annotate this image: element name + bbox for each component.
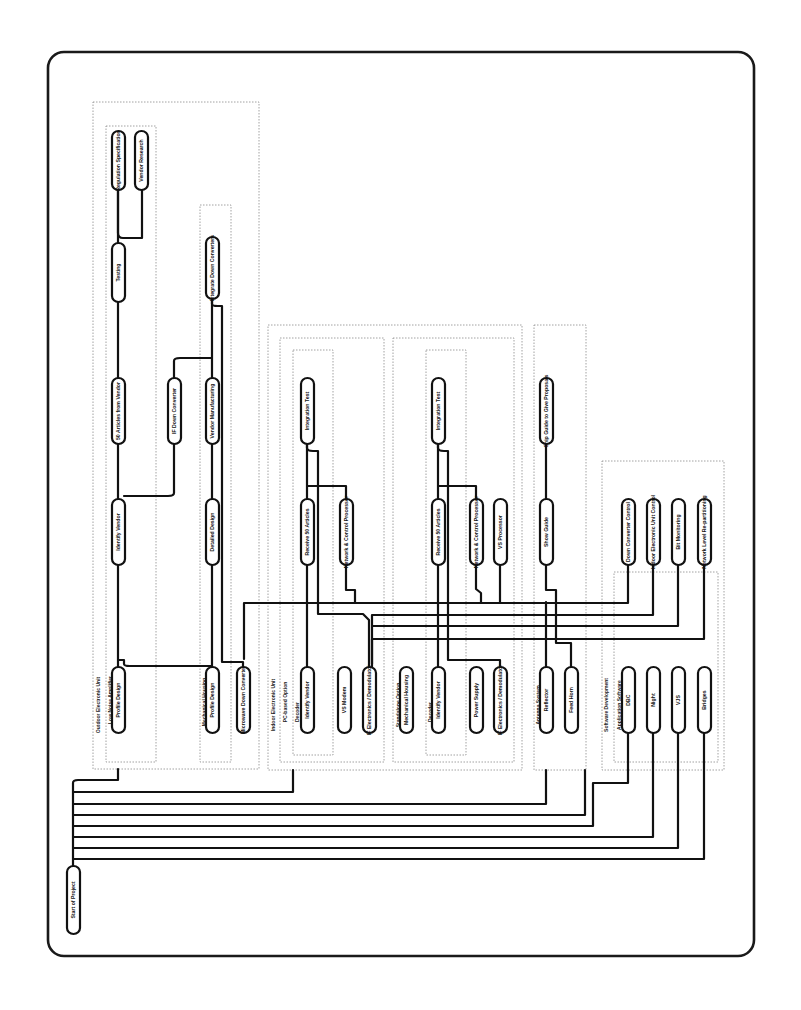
task-node-identify-vendor-2[interactable]: Identify Vendor <box>301 667 314 733</box>
task-node-indoor-ctrl[interactable]: Indoor Electronic Unit Control <box>647 494 660 569</box>
dependency-edge <box>73 733 628 826</box>
task-node-label: Power Supply <box>473 683 479 717</box>
task-node-network-ctrl-2[interactable]: Network & Control Processor <box>470 496 483 568</box>
task-node-vjs[interactable]: VJS <box>672 667 685 733</box>
task-node-label: Identify Vendor <box>304 681 310 718</box>
task-node-mod-1[interactable]: IF Electronics / Demodulator <box>363 665 376 735</box>
dependency-edge <box>556 602 571 667</box>
dependency-edge <box>73 733 678 848</box>
group-label: PC-based Option <box>282 682 288 723</box>
task-node-label: VS Modem <box>341 686 347 713</box>
task-node-vs-processor[interactable]: VS Processor <box>494 499 507 565</box>
project-network-diagram: Outdoor Electronic UnitLow Noise Amplifi… <box>0 0 801 1010</box>
task-node-reg-spec[interactable]: Regulation Specification <box>112 130 125 191</box>
dependency-edge <box>546 565 556 602</box>
task-node-testing[interactable]: Testing <box>112 243 125 302</box>
task-node-network-level[interactable]: Network Level Re-partitioning <box>698 495 711 569</box>
task-node-label: Integration Test <box>304 391 310 430</box>
dependency-edge <box>174 358 212 378</box>
task-node-label: Bit Monitoring <box>675 514 681 549</box>
task-node-rf-down[interactable]: IF Down Converter <box>168 378 181 444</box>
task-node-identify-vendor-3[interactable]: Identify Vendor <box>432 667 445 733</box>
task-node-label: Profile Design <box>209 683 215 718</box>
task-node-mod-2[interactable]: IF Electronics / Demodulator <box>494 665 507 735</box>
task-node-label: Vendor Research <box>138 139 144 181</box>
task-node-label: Receive 50 Articles <box>435 508 441 555</box>
task-node-integration-test-1[interactable]: Integration Test <box>301 378 314 444</box>
task-node-bit-monitoring[interactable]: Bit Monitoring <box>672 499 685 565</box>
dependency-edge <box>476 565 481 602</box>
task-node-label: IF Down Converter <box>171 388 177 434</box>
task-node-ship-guide[interactable]: Ship Guide to Give Proposals <box>540 374 553 447</box>
task-node-label: Integrate Down Converters <box>209 235 215 301</box>
task-node-label: IF Electronics / Demodulator <box>366 665 372 735</box>
task-node-label: Detailed Design <box>209 513 215 552</box>
task-node-night[interactable]: Night <box>647 667 660 733</box>
task-node-label: Night <box>650 693 656 707</box>
task-node-integration-test-2[interactable]: Integration Test <box>432 378 445 444</box>
task-node-lna-vendor[interactable]: 50 Articles from Vendor <box>112 378 125 444</box>
group-label: Software Development <box>603 678 609 732</box>
dependency-edge <box>212 299 243 667</box>
task-node-label: Regulation Specification <box>115 130 121 191</box>
task-node-reflector[interactable]: Reflector <box>540 667 553 733</box>
task-node-label: VS Processor <box>497 515 503 549</box>
task-node-label: Ship Guide to Give Proposals <box>543 374 549 447</box>
task-node-down-ctrl[interactable]: Down Converter Control <box>622 499 635 565</box>
task-node-network-ctrl-1[interactable]: Network & Control Processor <box>340 496 353 568</box>
task-node-profile-design-1[interactable]: Profile Design <box>112 667 125 733</box>
dependency-edge <box>73 733 653 837</box>
task-node-label: Start of Project <box>70 881 76 918</box>
task-node-label: Bridges <box>701 690 707 709</box>
task-node-label: Feed Horn <box>568 687 574 713</box>
task-node-bridges[interactable]: Bridges <box>698 667 711 733</box>
task-node-label: Testing <box>115 263 121 281</box>
group-label: Decoder <box>294 702 300 722</box>
task-node-receive-50-1[interactable]: Receive 50 Articles <box>301 499 314 565</box>
task-node-label: Mechanical Housing <box>403 675 409 725</box>
task-node-dbc[interactable]: DBC <box>622 667 635 733</box>
task-node-label: Profile Design <box>115 683 121 718</box>
task-node-label: Identify Vendor <box>115 513 121 550</box>
dependency-edge <box>73 770 546 804</box>
dependency-edge <box>372 565 653 667</box>
task-nodes: Regulation SpecificationVendor ResearchT… <box>67 130 711 934</box>
task-node-start[interactable]: Start of Project <box>67 866 80 934</box>
dependency-edge <box>438 486 476 499</box>
task-node-vendor-research[interactable]: Vendor Research <box>135 131 148 190</box>
task-node-label: IF Electronics / Demodulator <box>497 665 503 735</box>
task-node-vo-modem[interactable]: VS Modem <box>338 667 351 733</box>
group-label: Indoor Electronic Unit <box>270 679 276 732</box>
dependency-edge <box>118 660 212 666</box>
task-node-identify-vendor-1[interactable]: Identify Vendor <box>112 499 125 565</box>
task-node-label: Network Level Re-partitioning <box>701 495 707 569</box>
dependency-edge <box>307 486 346 499</box>
task-node-ship-guide-2[interactable]: Show Guide <box>540 499 553 565</box>
task-node-label: Indoor Electronic Unit Control <box>650 494 656 569</box>
task-node-receive-50-2[interactable]: Receive 50 Articles <box>432 499 445 565</box>
dependency-edge <box>73 769 118 866</box>
task-node-label: Identify Vendor <box>435 681 441 718</box>
dependency-edge <box>73 733 704 859</box>
dependency-edges <box>73 190 704 866</box>
task-node-profile-design-2[interactable]: Profile Design <box>206 667 219 733</box>
task-node-label: VJS <box>675 695 681 705</box>
group-label: Outdoor Electronic Unit <box>95 676 101 733</box>
task-node-microwave-down[interactable]: Microwave Down Converter <box>237 666 250 734</box>
task-node-detailed-design[interactable]: Detailed Design <box>206 499 219 565</box>
task-node-feed-horn[interactable]: Feed Horn <box>565 667 578 733</box>
dependency-edge <box>118 190 142 238</box>
task-node-label: Reflector <box>543 689 549 712</box>
task-node-label: DBC <box>625 694 631 705</box>
task-node-integrate-down[interactable]: Integrate Down Converters <box>206 235 219 301</box>
task-node-label: Receive 50 Articles <box>304 508 310 555</box>
dependency-edge <box>372 565 678 626</box>
task-node-label: Network & Control Processor <box>473 496 479 568</box>
task-node-label: Network & Control Processor <box>343 496 349 568</box>
task-node-label: Vendor Manufacturing <box>209 384 215 439</box>
dependency-edge <box>346 565 355 602</box>
task-node-vendor-mfg[interactable]: Vendor Manufacturing <box>206 378 219 444</box>
task-node-label: Down Converter Control <box>625 501 631 562</box>
task-node-mech-housing[interactable]: Mechanical Housing <box>400 667 413 733</box>
task-node-power-supply[interactable]: Power Supply <box>470 667 483 733</box>
